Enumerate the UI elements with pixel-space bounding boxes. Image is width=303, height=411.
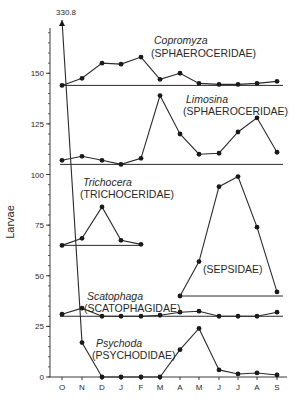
data-point <box>178 71 183 76</box>
data-point <box>217 151 222 156</box>
data-point <box>236 130 241 135</box>
x-tick-label: J <box>119 383 123 392</box>
data-point <box>60 83 65 88</box>
y-tick-label: 100 <box>31 171 45 180</box>
data-point <box>217 314 222 319</box>
data-point <box>197 309 202 314</box>
data-point <box>197 259 202 264</box>
data-point <box>217 368 222 373</box>
data-point <box>178 347 183 352</box>
x-tick-label: A <box>254 383 260 392</box>
data-point <box>80 154 85 159</box>
x-tick-label: O <box>59 383 65 392</box>
data-point <box>80 340 85 345</box>
data-point <box>275 373 280 378</box>
data-point <box>119 162 124 167</box>
data-point <box>275 79 280 84</box>
data-point <box>100 205 105 210</box>
data-point <box>60 312 65 317</box>
data-point <box>139 242 144 247</box>
y-tick-label: 150 <box>31 69 45 78</box>
x-tick-label: D <box>99 383 105 392</box>
data-point <box>275 310 280 315</box>
data-point <box>119 238 124 243</box>
series-copromyza <box>60 55 280 88</box>
larvae-chart: 0255075100125150ONDJFMAMJJAS Larvae 330.… <box>0 0 303 411</box>
data-point <box>60 243 65 248</box>
data-point <box>255 225 260 230</box>
series-baselines <box>60 85 283 316</box>
data-point <box>139 314 144 319</box>
data-point <box>197 326 202 331</box>
sepsidae-family-label: (SEPSIDAE) <box>203 263 263 275</box>
series-line <box>62 57 277 85</box>
data-point <box>158 375 163 380</box>
data-point <box>236 372 241 377</box>
data-point <box>158 93 163 98</box>
psychoda-family-label: (PSYCHODIDAE) <box>92 349 175 361</box>
limosina-family-label: (SPHAEROCERIDAE) <box>183 105 288 117</box>
data-point <box>100 158 105 163</box>
data-point <box>178 132 183 137</box>
y-tick-label: 0 <box>40 373 45 382</box>
trichocera-family-label: (TRICHOCERIDAE) <box>80 188 174 200</box>
data-point <box>275 290 280 295</box>
data-point <box>178 294 183 299</box>
psychoda-genus-label: Psychoda <box>96 337 142 349</box>
data-point <box>275 150 280 155</box>
y-tick-label: 25 <box>35 322 44 331</box>
copromyza-family-label: (SPHAEROCERIDAE) <box>151 47 256 59</box>
limosina-genus-label: Limosina <box>186 93 228 105</box>
off-scale-arrow-icon <box>59 20 65 26</box>
y-tick-label: 75 <box>35 221 44 230</box>
trichocera-genus-label: Trichocera <box>83 176 132 188</box>
data-point <box>139 156 144 161</box>
data-point <box>217 184 222 189</box>
data-point <box>197 152 202 157</box>
data-point <box>197 81 202 86</box>
data-point <box>255 314 260 319</box>
copromyza-genus-label: Copromyza <box>154 34 208 46</box>
x-tick-label: N <box>79 383 85 392</box>
scatophaga-family-label: (SCATOPHAGIDAE) <box>84 302 180 314</box>
x-tick-label: M <box>196 383 203 392</box>
data-point <box>119 314 124 319</box>
data-point <box>255 371 260 376</box>
x-tick-label: M <box>157 383 164 392</box>
series-trichocera <box>60 205 144 248</box>
data-point <box>139 375 144 380</box>
data-point <box>100 375 105 380</box>
data-point <box>255 81 260 86</box>
data-point <box>60 158 65 163</box>
data-point <box>100 61 105 66</box>
data-point <box>80 236 85 241</box>
y-tick-label: 125 <box>31 120 45 129</box>
data-point <box>119 375 124 380</box>
x-tick-label: J <box>236 383 240 392</box>
data-point <box>236 174 241 179</box>
off-scale-value-label: 330.8 <box>56 8 77 17</box>
x-tick-label: F <box>139 383 144 392</box>
series-line <box>180 177 277 296</box>
data-point <box>139 55 144 60</box>
scatophaga-genus-label: Scatophaga <box>87 290 143 302</box>
data-point <box>217 82 222 87</box>
data-point <box>236 314 241 319</box>
data-point <box>119 62 124 67</box>
data-point <box>80 76 85 81</box>
x-tick-label: A <box>177 383 183 392</box>
series-sepsidae <box>178 174 280 298</box>
y-axis-label: Larvae <box>4 205 16 239</box>
x-tick-label: S <box>274 383 279 392</box>
data-point <box>236 82 241 87</box>
y-tick-label: 50 <box>35 272 44 281</box>
x-tick-label: J <box>217 383 221 392</box>
data-point <box>158 77 163 82</box>
data-point <box>100 314 105 319</box>
